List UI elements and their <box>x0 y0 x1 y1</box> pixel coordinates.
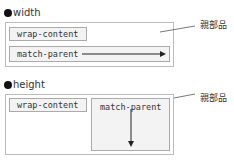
connector-lines <box>0 0 234 160</box>
leader-line <box>174 94 195 98</box>
leader-line <box>160 26 195 32</box>
